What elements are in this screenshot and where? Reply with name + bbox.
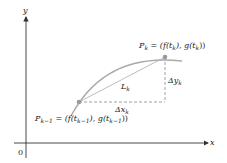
p-k-minus-1-label: Pk−1 = (f(tk−1), g(tk−1)): [35, 115, 128, 124]
x-axis-label: x: [210, 139, 215, 147]
delta-x-label: Δxk: [115, 106, 129, 115]
delta-y-label: Δyk: [168, 77, 182, 86]
p-k-label: Pk = (f(tk), g(tk)): [139, 42, 205, 51]
arc-length-diagram: y x 0 Pk = (f(tk), g(tk)) Pk−1 = (f(tk−1…: [0, 0, 227, 163]
origin-label: 0: [18, 149, 23, 157]
segment-lk: [79, 57, 165, 102]
point-p-k: [163, 55, 168, 60]
y-axis-label: y: [23, 7, 28, 15]
point-p-k-minus-1: [77, 100, 82, 105]
diagram-graphic: [0, 0, 227, 163]
segment-lk-label: Lk: [121, 83, 130, 92]
